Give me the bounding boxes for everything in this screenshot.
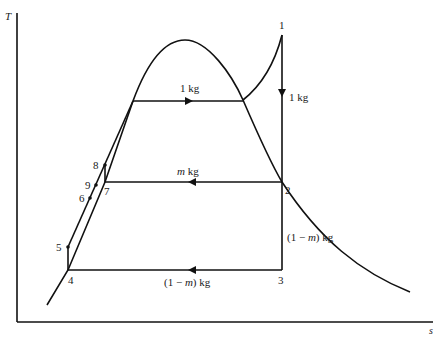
compressed-liquid-line <box>68 101 133 247</box>
y-axis-label: T <box>5 10 12 22</box>
flow-label-condenser: (1 − m) kg <box>164 276 211 289</box>
ts-diagram: T s 1 2 3 4 5 6 7 8 9 1 kg 1 kg m kg (1 … <box>0 0 439 337</box>
state-label-9: 9 <box>85 179 91 191</box>
arrow-down-icon <box>278 89 286 97</box>
state-point-8 <box>103 163 107 167</box>
arrow-right-icon <box>185 97 193 105</box>
state-label-3: 3 <box>278 274 284 286</box>
state-label-7: 7 <box>104 185 110 197</box>
flow-label-boiler: 1 kg <box>180 82 200 94</box>
superheat-curve <box>243 35 282 100</box>
state-label-6: 6 <box>79 192 85 204</box>
state-label-8: 8 <box>93 159 99 171</box>
state-label-4: 4 <box>68 274 74 286</box>
x-axis-label: s <box>429 325 433 336</box>
state-point-5 <box>66 245 70 249</box>
flow-label-extraction: m kg <box>177 165 199 177</box>
state-label-5: 5 <box>56 241 62 253</box>
arrow-left-icon <box>188 266 196 274</box>
state-label-2: 2 <box>285 184 291 196</box>
arrow-left-icon <box>188 178 196 186</box>
flow-label-turbine-lp: (1 − m) kg <box>287 231 334 244</box>
state-label-1: 1 <box>279 19 285 31</box>
state-point-6 <box>88 196 92 200</box>
state-point-9 <box>94 183 98 187</box>
flow-label-turbine: 1 kg <box>289 91 309 103</box>
